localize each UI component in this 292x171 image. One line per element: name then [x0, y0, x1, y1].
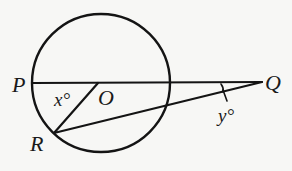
segment-PQ [33, 82, 262, 83]
circle-geometry-figure: P O Q R x° y° [0, 0, 292, 171]
label-Q: Q [265, 70, 281, 95]
label-R: R [29, 131, 44, 156]
label-angle-y: y° [216, 105, 234, 126]
label-O: O [98, 85, 114, 110]
label-angle-x: x° [53, 89, 70, 110]
label-P: P [11, 72, 25, 97]
